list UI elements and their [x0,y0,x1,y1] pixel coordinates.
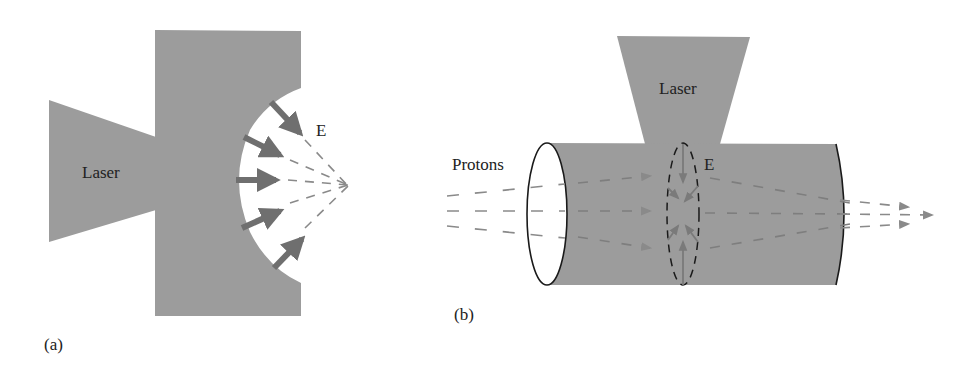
field-label-b: E [704,155,714,174]
cylinder-left-opening [527,143,567,285]
panel-a: Laser E (a) [44,30,348,354]
figure-canvas: Laser E (a) Laser [0,0,973,374]
field-arrow [244,137,280,155]
focus-lines-a [288,140,348,228]
panel-label-b: (b) [454,305,474,324]
proton-lines-outgoing [840,200,932,228]
target-block-a [155,30,301,316]
field-label-a: E [316,121,326,140]
laser-label-b: Laser [659,79,697,98]
panel-label-a: (a) [44,335,63,354]
field-arrow [242,211,280,228]
panel-b: Laser [447,36,932,324]
protons-label: Protons [452,155,504,174]
field-arrow [271,102,300,133]
field-arrow [274,239,302,268]
laser-label-a: Laser [82,163,120,182]
